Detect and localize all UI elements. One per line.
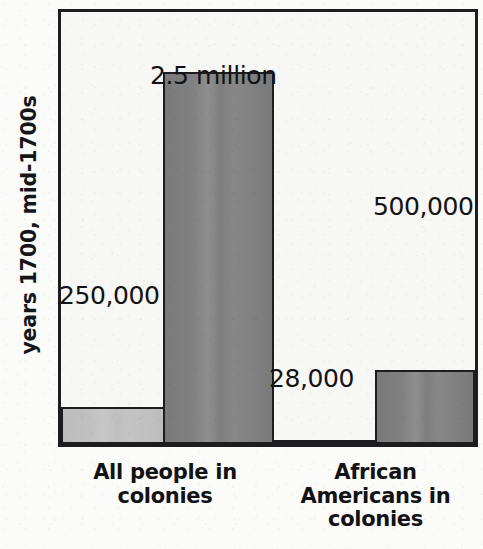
- bar-sheen: [63, 409, 165, 442]
- category-label-line: All people in: [52, 461, 278, 485]
- category-label-african-americans-in-colonies: African Americans in colonies: [268, 461, 483, 532]
- category-label-line: Americans in: [268, 485, 483, 509]
- category-label-line: African: [268, 461, 483, 485]
- category-label-line: colonies: [268, 508, 483, 532]
- bar-african-americans-1700[interactable]: [268, 440, 379, 444]
- value-label-all-people-mid1700s: 2.5 million: [150, 63, 277, 88]
- y-axis-label-text: years 1700, mid-1700s: [17, 95, 41, 354]
- bar-sheen: [165, 74, 272, 442]
- y-axis-label: years 1700, mid-1700s: [0, 0, 58, 449]
- bar-sheen: [377, 372, 473, 442]
- value-label-african-americans-mid1700s: 500,000: [373, 194, 474, 219]
- bar-all-people-mid1700s[interactable]: [163, 72, 274, 444]
- value-label-all-people-1700: 250,000: [59, 283, 160, 308]
- value-label-african-americans-1700: 28,000: [269, 366, 354, 391]
- bar-all-people-1700[interactable]: [61, 407, 167, 444]
- bar-chart-screenshot: years 1700, mid-1700s 250,000 2.5 millio…: [0, 0, 483, 549]
- bar-african-americans-mid1700s[interactable]: [375, 370, 475, 444]
- category-label-all-people-in-colonies: All people in colonies: [52, 461, 278, 508]
- category-label-line: colonies: [52, 485, 278, 509]
